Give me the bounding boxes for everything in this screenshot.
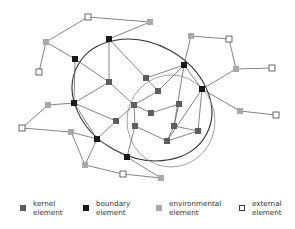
environmental-swatch-icon <box>156 205 162 211</box>
environmental-node <box>233 66 239 72</box>
edge <box>198 89 202 131</box>
kernel-node <box>171 123 177 129</box>
legend-label-environmental-line1: environmental <box>169 199 221 208</box>
legend-label-environmental-line2: element <box>169 208 221 217</box>
environmental-node <box>68 129 74 135</box>
legend-label-kernel-line1: kernel <box>33 199 63 208</box>
edge <box>151 104 179 113</box>
boundary-node <box>181 62 187 68</box>
legend-item-external: external element <box>239 199 282 217</box>
kernel-node <box>143 75 149 81</box>
edge <box>85 139 97 165</box>
environmental-node <box>82 162 88 168</box>
legend-item-environmental: environmental element <box>156 199 221 217</box>
edge <box>174 126 198 131</box>
kernel-node <box>106 79 112 85</box>
external-node <box>120 171 126 177</box>
external-node <box>269 65 275 71</box>
kernel-node <box>176 101 182 107</box>
edge <box>48 103 74 105</box>
edge <box>71 132 85 165</box>
edge <box>134 91 158 105</box>
edge <box>240 111 276 115</box>
edge <box>97 139 127 157</box>
boundary-node <box>106 36 112 42</box>
environmental-node <box>188 33 194 39</box>
kernel-node <box>164 138 170 144</box>
edge <box>46 42 75 59</box>
edge <box>74 103 116 121</box>
external-node <box>273 112 279 118</box>
legend-item-kernel: kernel element <box>20 199 63 217</box>
edge <box>74 82 109 103</box>
edge <box>39 42 46 72</box>
legend-label-boundary-line2: element <box>96 208 130 217</box>
external-swatch-icon <box>239 205 245 211</box>
kernel-swatch-icon <box>20 205 26 211</box>
edge <box>236 68 272 69</box>
network-diagram <box>0 0 295 190</box>
edge <box>202 69 236 89</box>
edge <box>75 59 109 82</box>
legend-label-kernel-line2: element <box>33 208 63 217</box>
edge <box>85 165 123 174</box>
edge <box>229 39 236 69</box>
environmental-node <box>43 39 49 45</box>
legend-label-boundary-line1: boundary <box>96 199 130 208</box>
edge <box>74 59 75 103</box>
edge <box>202 89 240 111</box>
edge <box>135 126 167 141</box>
edge <box>109 22 150 39</box>
boundary-node <box>94 136 100 142</box>
nodes <box>19 14 279 181</box>
legend-item-boundary: boundary element <box>83 199 130 217</box>
kernel-node <box>131 102 137 108</box>
edge <box>184 36 191 65</box>
kernel-node <box>148 110 154 116</box>
kernel-node <box>155 88 161 94</box>
environmental-node <box>237 108 243 114</box>
external-node <box>85 14 91 20</box>
kernel-node <box>113 118 119 124</box>
edge <box>174 65 184 126</box>
boundary-swatch-icon <box>83 205 89 211</box>
external-node <box>36 69 42 75</box>
legend-label-external-line1: external <box>252 199 282 208</box>
edge <box>22 105 48 128</box>
environmental-node <box>45 102 51 108</box>
edges <box>22 17 276 178</box>
edge <box>134 105 135 126</box>
edge <box>46 17 88 42</box>
edge <box>167 131 198 141</box>
edge <box>174 104 179 126</box>
boundary-node <box>72 56 78 62</box>
environmental-node <box>147 19 153 25</box>
edge <box>109 39 146 78</box>
edge <box>146 65 184 78</box>
edge <box>22 128 71 132</box>
edge <box>191 36 229 39</box>
boundary-node <box>71 100 77 106</box>
environmental-node <box>158 175 164 181</box>
edge <box>109 82 134 105</box>
edge <box>88 17 150 22</box>
boundary-node <box>199 86 205 92</box>
legend: kernel element boundary element environm… <box>0 199 295 227</box>
kernel-node <box>195 128 201 134</box>
boundary-node <box>124 154 130 160</box>
external-node <box>19 125 25 131</box>
kernel-node <box>132 123 138 129</box>
legend-label-external-line2: element <box>252 208 282 217</box>
external-node <box>226 36 232 42</box>
